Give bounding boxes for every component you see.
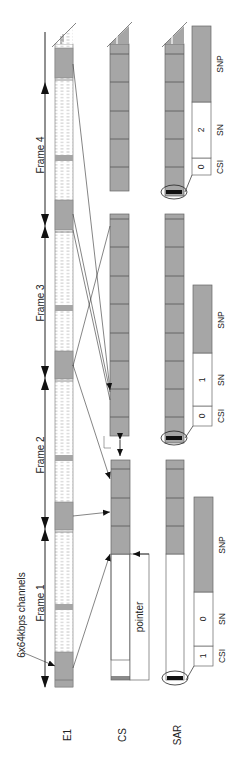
- sn-value: 1: [197, 377, 207, 382]
- e1-timeslot-0: [55, 48, 73, 78]
- snp-label: SNP: [216, 311, 226, 329]
- aal1-structure-diagram: E1 CS SAR 6x64kbps channels Frame 1 Fram…: [0, 0, 238, 771]
- cs-cell: [111, 460, 130, 554]
- csi-label: CSI: [216, 409, 226, 423]
- sn-value: 2: [196, 127, 206, 132]
- row-label-sar: SAR: [172, 725, 183, 746]
- sar-header-byte: [167, 676, 183, 680]
- sn-label: SN: [216, 374, 226, 386]
- csi-value: 0: [197, 413, 207, 418]
- csi-label: CSI: [217, 649, 227, 663]
- snp-label: SNP: [215, 55, 225, 73]
- e1-timeslot-16: [55, 455, 73, 461]
- sar-layer-strip: [161, 22, 188, 685]
- cs-layer-strip: [104, 22, 149, 680]
- e1-channel-strip: [52, 23, 76, 687]
- frame-label-3: Frame 3: [35, 284, 46, 322]
- sn-value: 0: [198, 616, 208, 621]
- sar-header-byte: [166, 436, 182, 440]
- sn-label: SN: [217, 613, 227, 625]
- frame-label-2: Frame 2: [35, 436, 46, 474]
- row-label-cs: CS: [117, 728, 128, 742]
- e1-timeslot-16: [55, 155, 73, 161]
- csi-value: 0: [196, 164, 206, 169]
- e1-timeslot-0: [55, 351, 73, 379]
- mapping-arrows: [73, 64, 110, 668]
- csi-value: 1: [198, 653, 208, 658]
- pointer-label: pointer: [134, 601, 145, 632]
- csi-label: CSI: [215, 160, 225, 174]
- sn-label: SN: [215, 124, 225, 136]
- channels-label: 6x64kbps channels: [16, 572, 27, 658]
- frame-label-4: Frame 4: [35, 136, 46, 174]
- e1-timeslot-16: [55, 305, 73, 311]
- e1-timeslot-0: [55, 200, 73, 230]
- sar-header-byte: [166, 190, 182, 194]
- frame-label-1: Frame 1: [35, 584, 46, 622]
- sar-header-1: [186, 497, 213, 680]
- snp-label: SNP: [217, 536, 227, 554]
- cs-pointer-byte: [111, 676, 130, 680]
- row-label-e1: E1: [62, 728, 73, 741]
- e1-timeslot-0: [55, 652, 73, 687]
- e1-timeslot-0: [55, 502, 73, 530]
- e1-timeslot-16: [55, 604, 73, 610]
- cs-cell: [110, 44, 129, 191]
